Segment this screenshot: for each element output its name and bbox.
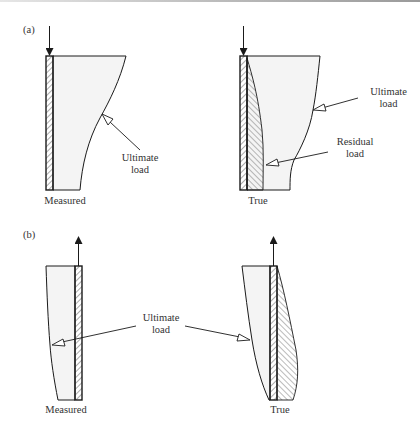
- caption-true: True: [264, 404, 296, 416]
- load-distribution-figure: [0, 0, 420, 435]
- ultimate-load-area: [242, 266, 270, 400]
- panel-tag-b: (b): [23, 229, 35, 240]
- residual-load-area: [277, 266, 298, 400]
- panel-tag-a: (a): [23, 24, 35, 35]
- ultimate-load-label: Ultimate load: [361, 86, 416, 110]
- panel-b-true: [185, 240, 298, 400]
- pile-shaft: [46, 56, 53, 190]
- panel-a-true: [240, 26, 358, 190]
- ultimate-load-label: Ultimate load: [136, 312, 186, 336]
- pile-shaft: [75, 266, 82, 400]
- caption-measured: Measured: [40, 195, 90, 207]
- hollow-arrow-icon: [237, 334, 250, 341]
- caption-measured: Measured: [41, 404, 91, 416]
- residual-load-label: Residual load: [330, 136, 380, 160]
- hollow-arrow-icon: [313, 104, 326, 111]
- panel-b-measured: [46, 240, 136, 400]
- ultimate-load-label: Ultimate load: [115, 152, 165, 176]
- ultimate-load-area: [46, 266, 75, 400]
- caption-true: True: [242, 195, 274, 207]
- pile-shaft: [270, 266, 277, 400]
- pile-shaft: [240, 56, 247, 190]
